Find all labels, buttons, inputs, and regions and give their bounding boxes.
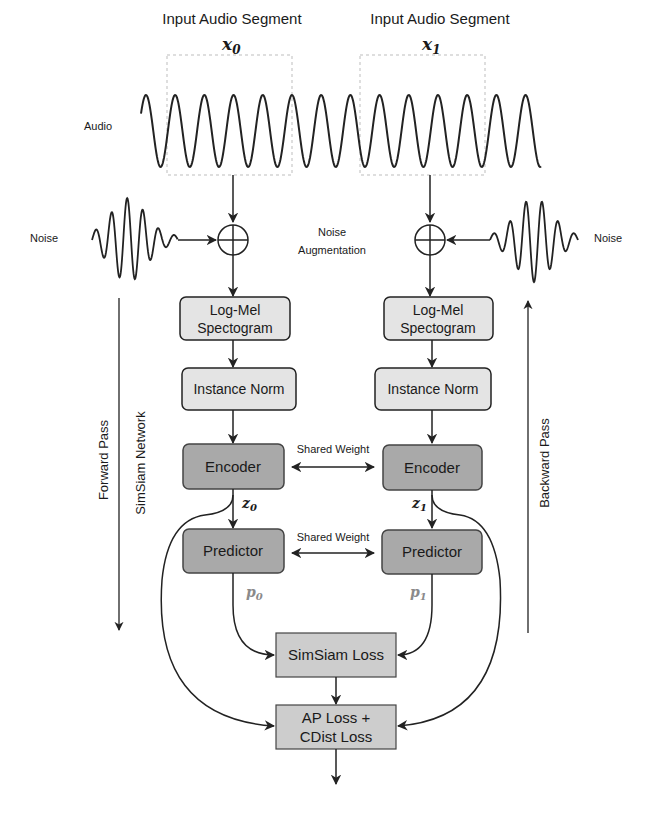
segment-box-right <box>360 55 485 175</box>
svg-text:Log-Mel: Log-Mel <box>210 302 261 318</box>
audio-label: Audio <box>84 120 112 132</box>
simsiam-audio-diagram: Input Audio Segment Input Audio Segment … <box>0 0 660 829</box>
noise-waveform-right <box>490 202 578 282</box>
z0-symbol: z0 <box>241 495 257 513</box>
logmel-block-right: Log-Mel Spectogram <box>384 297 493 340</box>
logmel-block-left: Log-Mel Spectogram <box>180 297 290 340</box>
shared-weight-predictor-label: Shared Weight <box>297 531 370 543</box>
svg-text:SimSiam Loss: SimSiam Loss <box>288 646 384 663</box>
svg-text:Instance Norm: Instance Norm <box>387 381 478 397</box>
encoder-block-right: Encoder <box>383 445 482 490</box>
backward-pass-label: Backward Pass <box>537 418 552 508</box>
svg-text:CDist Loss: CDist Loss <box>300 728 373 745</box>
svg-text:Log-Mel: Log-Mel <box>413 302 464 318</box>
svg-text:Predictor: Predictor <box>402 543 462 560</box>
sum-node-right <box>415 225 445 255</box>
input-title-left: Input Audio Segment <box>162 10 302 27</box>
svg-text:Encoder: Encoder <box>404 459 460 476</box>
simsiam-loss-block: SimSiam Loss <box>276 633 396 677</box>
instance-norm-block-right: Instance Norm <box>375 368 491 410</box>
svg-text:Encoder: Encoder <box>205 458 261 475</box>
noise-augmentation-label-1: Noise <box>318 226 346 238</box>
p1-symbol: p1 <box>410 584 427 602</box>
x1-symbol: x1 <box>421 34 441 57</box>
noise-augmentation-label-2: Augmentation <box>298 244 366 256</box>
sum-node-left <box>218 225 248 255</box>
ap-cdist-loss-block: AP Loss + CDist Loss <box>276 705 396 749</box>
encoder-block-left: Encoder <box>183 444 284 489</box>
predictor-block-left: Predictor <box>183 529 284 573</box>
svg-text:Predictor: Predictor <box>203 542 263 559</box>
input-title-right: Input Audio Segment <box>370 10 510 27</box>
svg-text:Instance Norm: Instance Norm <box>193 381 284 397</box>
svg-text:Spectogram: Spectogram <box>400 320 475 336</box>
simsiam-network-label: SimSiam Network <box>133 411 148 515</box>
shared-weight-encoder-label: Shared Weight <box>297 443 370 455</box>
audio-waveform <box>141 95 541 167</box>
p0-symbol: p0 <box>246 584 263 602</box>
predictor-block-right: Predictor <box>382 530 482 574</box>
noise-waveform-left <box>92 198 178 279</box>
svg-text:AP Loss +: AP Loss + <box>302 709 371 726</box>
z1-symbol: z1 <box>411 495 427 513</box>
x0-symbol: x0 <box>221 34 241 57</box>
svg-text:Spectogram: Spectogram <box>197 320 272 336</box>
forward-pass-label: Forward Pass <box>96 419 111 500</box>
instance-norm-block-left: Instance Norm <box>182 368 296 410</box>
noise-label-left: Noise <box>30 232 58 244</box>
noise-label-right: Noise <box>594 232 622 244</box>
